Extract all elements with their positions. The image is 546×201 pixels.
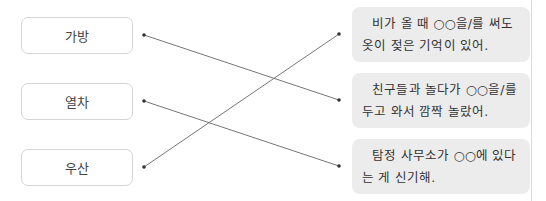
page-margin-line	[531, 0, 532, 201]
left-dot[interactable]	[142, 99, 146, 103]
connection-line	[144, 34, 339, 167]
connection-line	[144, 35, 339, 100]
right-item-1[interactable]: 비가 올 때 ○○을/를 써도 옷이 젖은 기억이 있어.	[352, 7, 530, 62]
right-item-3[interactable]: 탐정 사무소가 ○○에 있다는 게 신기해.	[352, 139, 530, 194]
right-item-2[interactable]: 친구들과 놀다가 ○○을/를 두고 와서 깜짝 놀랐어.	[352, 73, 530, 128]
connection-line	[144, 101, 339, 166]
right-item-text: 비가 올 때 ○○을/를 써도 옷이 젖은 기억이 있어.	[362, 16, 513, 53]
left-dot[interactable]	[142, 165, 146, 169]
right-dot[interactable]	[337, 164, 341, 168]
right-dot[interactable]	[337, 98, 341, 102]
right-item-text: 친구들과 놀다가 ○○을/를 두고 와서 깜짝 놀랐어.	[362, 82, 517, 119]
right-dot[interactable]	[337, 32, 341, 36]
right-item-text: 탐정 사무소가 ○○에 있다는 게 신기해.	[362, 148, 517, 185]
left-dot[interactable]	[142, 33, 146, 37]
